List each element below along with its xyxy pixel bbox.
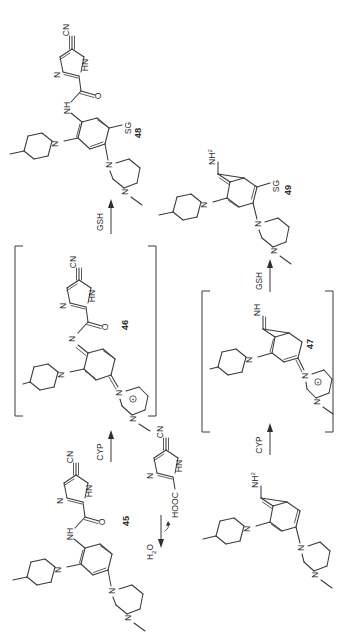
atom-label-iminium-n-46: N <box>114 390 124 396</box>
atom-label-piperazine-n4-48: N <box>120 189 130 195</box>
atom-label-amide-nh-48: NH <box>62 102 72 114</box>
atom-label-n-imidazole-45: N <box>55 498 65 504</box>
compound-number-47: 47 <box>304 339 315 349</box>
atom-label-cn-46: CN <box>68 256 78 268</box>
atom-label-n-imidazole-acid: N <box>145 473 155 479</box>
atom-label-amide-nh-45: NH <box>65 528 75 540</box>
atom-label-iminium-n-47: N <box>300 373 310 379</box>
atom-label-piperazine-n4-46: N <box>128 416 138 422</box>
atom-label-nh-imidazole-46: HN <box>87 290 97 302</box>
atom-label-piperazine-n4-45: N <box>123 615 133 621</box>
atom-label-n-imidazole-46: N <box>58 303 68 309</box>
atom-label-imine-nh-47: NH <box>252 304 262 316</box>
compound-number-46: 46 <box>119 320 130 330</box>
compound-number-48: 48 <box>132 128 143 138</box>
atom-label-piperazine-n4-49: N <box>269 248 279 254</box>
atom-label-cn-acid: CN <box>155 426 165 438</box>
atom-label-piperazine-n1-48: N <box>104 162 114 168</box>
atom-label-piperazine-n1-aniline: N <box>296 545 306 551</box>
positive-charge-46: + <box>132 396 135 402</box>
atom-label-carbonyl-o-46: O <box>100 323 110 330</box>
atom-label-carbonyl-o-45: O <box>97 518 107 525</box>
reagent-label-gsh-left: GSH <box>95 213 105 231</box>
atom-label-sg-49: SG <box>271 179 281 192</box>
atom-label-nh-imidazole-acid: HN <box>174 460 184 472</box>
compound-number-49: 49 <box>282 185 293 195</box>
atom-label-piperazine-n4-47: N <box>312 399 322 405</box>
atom-label-carbonyl-o-48: O <box>93 92 103 99</box>
compound-number-45: 45 <box>120 516 131 526</box>
atom-label-nh-imidazole-48: HN <box>80 59 90 71</box>
atom-label-imine-n-46: N <box>67 336 77 342</box>
atom-label-piperazine-n1-45: N <box>107 588 117 594</box>
atom-label-piperazine-n4-aniline: N <box>310 572 320 578</box>
atom-label-nh-imidazole-45: HN <box>84 485 94 497</box>
positive-charge-47: + <box>317 379 320 385</box>
atom-label-piperazine-n1-49: N <box>253 221 263 227</box>
atom-label-cn-48: CN <box>61 24 71 36</box>
atom-label-cooh-acid: HOOC <box>170 492 180 518</box>
reagent-label-cyp-right: CYP <box>254 436 264 454</box>
reagent-label-gsh-right: GSH <box>254 272 264 290</box>
reaction-scheme-figure: CN N HN O NH SG <box>0 0 340 637</box>
reagent-label-cyp-left: CYP <box>95 443 105 461</box>
atom-label-n-imidazole-48: N <box>52 72 62 78</box>
figure-background <box>0 0 340 637</box>
atom-label-cn-45: CN <box>65 451 75 463</box>
